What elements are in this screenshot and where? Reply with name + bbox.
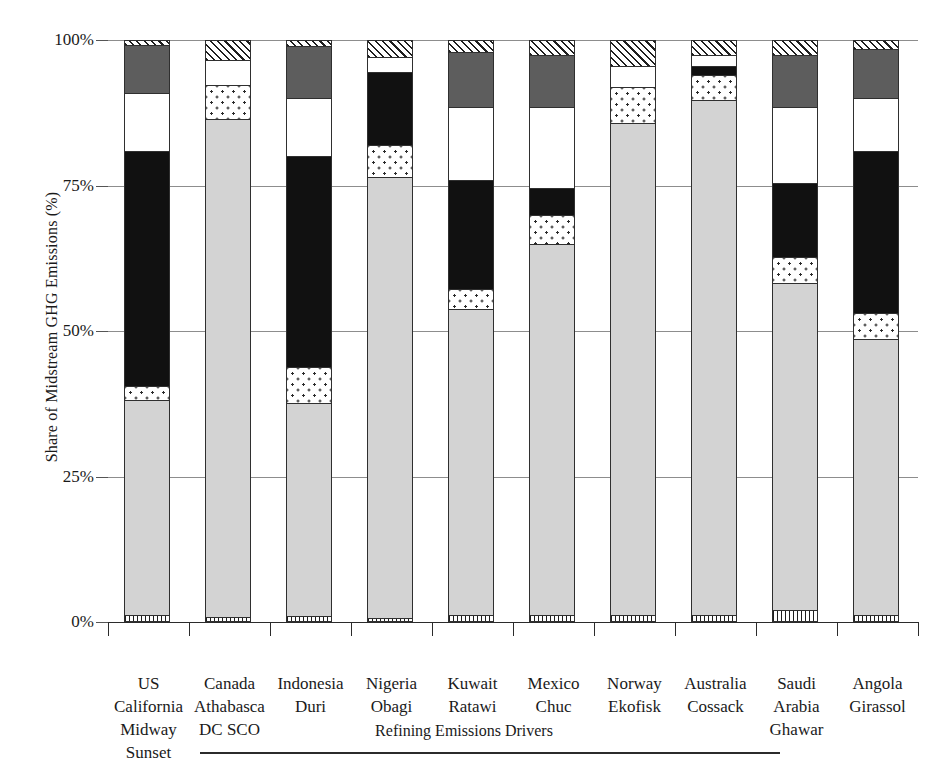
bar-6-segment-dotted xyxy=(529,215,575,244)
x-tick-label-10: AngolaGirassol xyxy=(820,672,928,718)
bar-5[interactable] xyxy=(448,40,494,622)
bar-1-segment-white xyxy=(124,93,170,151)
bar-8-segment-dotted xyxy=(691,75,737,100)
bar-1-segment-diagonal-hatch-top xyxy=(124,40,170,45)
bar-9-segment-black xyxy=(772,183,818,257)
x-tick-mark xyxy=(108,622,109,636)
bar-5-segment-dotted xyxy=(448,289,494,309)
x-tick-mark xyxy=(351,622,352,636)
bar-5-segment-white xyxy=(448,107,494,180)
bar-5-segment-diagonal-hatch-top xyxy=(448,40,494,52)
chart-figure: Share of Midstream GHG Emissions (%) 0%2… xyxy=(0,0,928,771)
bar-9-segment-light-gray xyxy=(772,283,818,610)
y-tick-label-25%: 25% xyxy=(16,467,94,487)
bar-8-segment-diagonal-hatch-top xyxy=(691,40,737,55)
y-tick-label-100%: 100% xyxy=(16,30,94,50)
bar-3-segment-white xyxy=(286,98,332,156)
bottom-bracket-line xyxy=(200,752,780,754)
bar-5-segment-light-gray xyxy=(448,309,494,615)
x-tick-mark xyxy=(918,622,919,636)
bar-3[interactable] xyxy=(286,40,332,622)
bar-8-segment-white xyxy=(691,55,737,67)
x-tick-mark xyxy=(675,622,676,636)
bar-5-segment-vertical-hatch-base xyxy=(448,615,494,622)
bar-4-segment-black xyxy=(367,72,413,145)
x-tick-mark xyxy=(270,622,271,636)
x-tick-label-line: Sunset xyxy=(91,741,207,764)
x-tick-mark xyxy=(513,622,514,636)
y-tick-mark xyxy=(96,40,108,41)
bar-5-segment-black xyxy=(448,180,494,289)
bar-10-segment-vertical-hatch-base xyxy=(853,615,899,622)
bar-8-segment-black xyxy=(691,66,737,75)
bar-6-segment-black xyxy=(529,188,575,214)
bar-9-segment-dark-gray xyxy=(772,55,818,107)
bar-8-segment-vertical-hatch-base xyxy=(691,615,737,622)
bar-3-segment-black xyxy=(286,156,332,367)
y-tick-label-75%: 75% xyxy=(16,176,94,196)
bar-9-segment-vertical-hatch-base xyxy=(772,610,818,622)
bottom-annotation-label: Refining Emissions Drivers xyxy=(0,722,928,740)
y-tick-mark xyxy=(96,477,108,478)
bar-2-segment-dotted xyxy=(205,85,251,119)
y-tick-mark xyxy=(96,186,108,187)
bar-7-segment-vertical-hatch-base xyxy=(610,615,656,622)
bar-7-segment-diagonal-hatch-top xyxy=(610,40,656,66)
bar-10-segment-black xyxy=(853,151,899,313)
bar-10-segment-dotted xyxy=(853,313,899,339)
x-tick-mark xyxy=(432,622,433,636)
bar-6-segment-diagonal-hatch-top xyxy=(529,40,575,55)
x-tick-label-line: Angola xyxy=(820,672,928,695)
bar-1-segment-dotted xyxy=(124,386,170,400)
bar-4-segment-dotted xyxy=(367,145,413,176)
bar-7-segment-light-gray xyxy=(610,123,656,615)
bar-9-segment-white xyxy=(772,107,818,183)
bar-6-segment-light-gray xyxy=(529,244,575,615)
bar-4-segment-white xyxy=(367,57,413,72)
bar-10-segment-light-gray xyxy=(853,339,899,615)
bar-8-segment-light-gray xyxy=(691,100,737,615)
bar-1-segment-vertical-hatch-base xyxy=(124,615,170,622)
bar-2[interactable] xyxy=(205,40,251,622)
x-tick-label-line: Girassol xyxy=(820,695,928,718)
bar-1-segment-light-gray xyxy=(124,400,170,615)
bar-9[interactable] xyxy=(772,40,818,622)
x-tick-mark xyxy=(189,622,190,636)
bar-10-segment-dark-gray xyxy=(853,49,899,98)
bar-3-segment-diagonal-hatch-top xyxy=(286,40,332,46)
y-tick-mark xyxy=(96,622,108,623)
bar-5-segment-dark-gray xyxy=(448,52,494,107)
bar-2-segment-white xyxy=(205,60,251,84)
bar-6-segment-vertical-hatch-base xyxy=(529,615,575,622)
bar-2-segment-diagonal-hatch-top xyxy=(205,40,251,60)
bar-7-segment-white xyxy=(610,66,656,86)
y-tick-mark xyxy=(96,331,108,332)
bar-3-segment-light-gray xyxy=(286,403,332,617)
bar-1[interactable] xyxy=(124,40,170,622)
x-tick-mark xyxy=(756,622,757,636)
y-tick-label-50%: 50% xyxy=(16,321,94,341)
bar-4-segment-diagonal-hatch-top xyxy=(367,40,413,57)
bar-3-segment-dotted xyxy=(286,367,332,403)
bar-1-segment-dark-gray xyxy=(124,45,170,93)
x-tick-mark xyxy=(837,622,838,636)
x-tick-mark xyxy=(594,622,595,636)
y-tick-label-0%: 0% xyxy=(16,612,94,632)
bar-3-segment-dark-gray xyxy=(286,46,332,98)
bar-4-segment-light-gray xyxy=(367,177,413,618)
plot-area: 0%25%50%75%100% USCaliforniaMidwaySunset… xyxy=(108,40,918,622)
bar-6-segment-dark-gray xyxy=(529,55,575,107)
bar-10-segment-diagonal-hatch-top xyxy=(853,40,899,49)
bar-2-segment-light-gray xyxy=(205,119,251,618)
bar-10-segment-white xyxy=(853,98,899,150)
bar-9-segment-dotted xyxy=(772,257,818,284)
bar-6[interactable] xyxy=(529,40,575,622)
bar-7-segment-dotted xyxy=(610,87,656,124)
bar-9-segment-diagonal-hatch-top xyxy=(772,40,818,55)
bar-6-segment-white xyxy=(529,107,575,188)
bar-7[interactable] xyxy=(610,40,656,622)
bar-1-segment-black xyxy=(124,151,170,386)
bar-10[interactable] xyxy=(853,40,899,622)
bar-8[interactable] xyxy=(691,40,737,622)
bar-4[interactable] xyxy=(367,40,413,622)
